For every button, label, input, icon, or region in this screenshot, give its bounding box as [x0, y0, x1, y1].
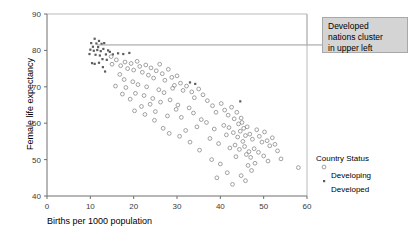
data-point-developing	[184, 129, 188, 133]
data-point-developed	[92, 46, 94, 48]
data-point-developing	[228, 146, 232, 150]
data-point-developed	[189, 81, 191, 83]
data-point-developing	[233, 143, 237, 147]
data-point-developing	[251, 137, 255, 141]
data-point-developing	[219, 102, 223, 106]
data-point-developing	[225, 171, 229, 175]
data-point-developing	[239, 174, 243, 178]
data-point-developing	[144, 63, 148, 67]
data-point-developing	[185, 84, 189, 88]
data-point-developing	[245, 125, 249, 129]
data-point-developing	[154, 69, 158, 73]
data-point-developing	[246, 164, 250, 168]
data-point-developing	[201, 93, 205, 97]
data-point-developing	[170, 75, 174, 79]
legend-title: Country Status	[316, 147, 369, 165]
data-point-developed	[117, 52, 119, 54]
annotation-leader-line	[97, 14, 322, 45]
annotation-callout: Developed nations cluster in upper left	[322, 17, 408, 53]
data-point-developing	[174, 107, 178, 111]
data-point-developing	[248, 132, 252, 136]
data-point-developing	[119, 64, 123, 68]
data-point-developed	[98, 62, 100, 64]
data-point-developed	[96, 49, 98, 51]
y-tick-label: 90	[32, 10, 41, 19]
x-axis-title: Births per 1000 population	[47, 210, 152, 228]
axis-tick-labels: 4050607080900102030405060	[32, 10, 312, 211]
data-point-developing	[276, 149, 280, 153]
data-point-developing	[110, 62, 114, 66]
legend-item-developed[interactable]: Developed	[331, 178, 369, 196]
data-point-developing	[181, 89, 185, 93]
data-point-developing	[241, 140, 245, 144]
plot-frame	[47, 14, 307, 196]
annotation-line-2: nations cluster	[328, 32, 402, 43]
data-point-developing	[240, 121, 244, 125]
legend-label-developed: Developed	[331, 185, 369, 194]
data-point-developing	[128, 97, 132, 101]
data-point-developing	[234, 155, 238, 159]
data-point-developed	[239, 100, 241, 102]
data-point-developed	[128, 52, 130, 54]
data-point-developing	[124, 86, 128, 90]
legend-marker-developed	[323, 180, 325, 182]
data-point-developing	[179, 81, 183, 85]
data-point-developed	[90, 42, 92, 44]
data-point-developing	[160, 72, 164, 76]
data-point-developing	[273, 142, 277, 146]
data-point-developing	[145, 85, 149, 89]
data-point-developing	[257, 150, 261, 154]
data-point-developing	[250, 169, 254, 173]
data-point-developed	[194, 83, 196, 85]
data-point-developing	[118, 73, 122, 77]
data-point-developing	[266, 159, 270, 163]
annotation-line-3: in upper left	[328, 43, 402, 54]
data-point-developing	[175, 74, 179, 78]
data-point-developed	[100, 50, 102, 52]
data-point-developing	[143, 113, 147, 117]
data-point-developing	[176, 103, 180, 107]
data-point-developed	[94, 63, 96, 65]
data-point-developed	[101, 58, 103, 60]
data-point-developing	[138, 65, 142, 69]
data-point-developing	[218, 162, 222, 166]
data-point-developing	[149, 66, 153, 70]
scatter-chart: 4050607080900102030405060 Developed nati…	[0, 0, 415, 236]
data-point-developed	[95, 42, 97, 44]
data-point-developing	[166, 114, 170, 118]
data-point-developed	[98, 40, 100, 42]
data-point-developing	[260, 140, 264, 144]
data-point-developing	[252, 147, 256, 151]
data-point-developing	[270, 136, 274, 140]
data-point-developed	[105, 53, 107, 55]
data-point-developed	[97, 46, 99, 48]
data-point-developing	[131, 80, 135, 84]
data-point-developing	[215, 176, 219, 180]
data-point-developing	[208, 137, 212, 141]
data-point-developing	[243, 145, 247, 149]
data-point-developing	[126, 67, 130, 71]
data-point-developing	[235, 110, 239, 114]
data-point-developing	[123, 60, 127, 64]
data-point-developed	[94, 54, 96, 56]
data-point-developed	[88, 53, 90, 55]
y-tick-label: 40	[32, 192, 41, 201]
data-point-developing	[214, 110, 218, 114]
data-point-developing	[157, 88, 161, 92]
data-point-developing	[227, 126, 231, 130]
data-point-developing	[195, 125, 199, 129]
data-point-developing	[168, 98, 172, 102]
data-point-developing	[135, 59, 139, 63]
data-point-developing	[247, 150, 251, 154]
data-point-developing	[268, 144, 272, 148]
legend	[322, 165, 326, 182]
data-point-developing	[152, 76, 156, 80]
data-point-developing	[222, 123, 226, 127]
data-point-developing	[205, 121, 209, 125]
data-point-developing	[171, 86, 175, 90]
data-point-developing	[148, 102, 152, 106]
data-point-developing	[257, 134, 261, 138]
data-point-developing	[244, 134, 248, 138]
data-point-developing	[161, 126, 165, 130]
data-point-developing	[217, 142, 221, 146]
